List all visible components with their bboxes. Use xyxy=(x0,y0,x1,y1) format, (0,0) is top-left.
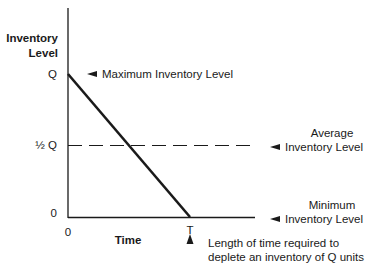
x-tick-zero: 0 xyxy=(58,225,78,239)
average-label-line1: Average xyxy=(270,126,378,140)
time-label-line1: Length of time required to xyxy=(208,236,364,250)
y-axis-title: Inventory Level xyxy=(0,31,58,61)
average-label-line2: Inventory Level xyxy=(285,141,363,153)
time-label-line2: deplete an inventory of Q units xyxy=(208,250,364,264)
maximum-inventory-label: Maximum Inventory Level xyxy=(102,68,233,80)
y-tick-half-q: ½ Q xyxy=(0,138,57,152)
depletion-line xyxy=(68,74,190,217)
x-axis-title: Time xyxy=(103,233,153,247)
minimum-inventory-annotation: Minimum Inventory Level xyxy=(270,198,378,226)
left-arrow-icon xyxy=(87,71,97,77)
y-tick-zero: 0 xyxy=(0,206,57,220)
maximum-inventory-annotation: Maximum Inventory Level xyxy=(87,67,233,81)
minimum-label-line2: Inventory Level xyxy=(285,213,363,225)
y-axis-title-line2: Level xyxy=(0,46,58,61)
y-axis-title-line1: Inventory xyxy=(0,31,58,46)
y-tick-q: Q xyxy=(0,67,57,81)
time-annotation: Length of time required to deplete an in… xyxy=(208,236,364,264)
x-tick-t: T xyxy=(180,223,200,237)
average-inventory-annotation: Average Inventory Level xyxy=(270,126,378,154)
left-arrow-icon xyxy=(270,216,280,222)
minimum-label-line1: Minimum xyxy=(270,198,378,212)
left-arrow-icon xyxy=(270,144,280,150)
